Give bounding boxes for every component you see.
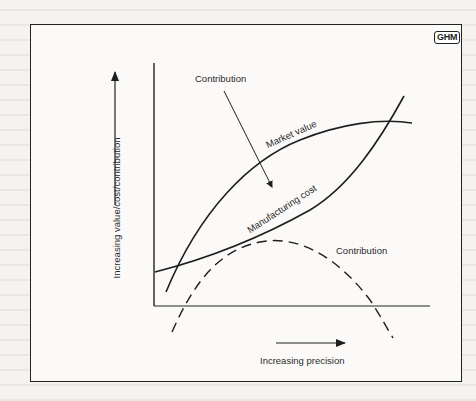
x-axis-label: Increasing precision (260, 355, 345, 366)
y-axis-label: Increasing value/cost/contribution (111, 138, 122, 279)
diagram-canvas (0, 0, 476, 401)
contribution-callout-label: Contribution (195, 73, 246, 84)
contribution-curve-label: Contribution (336, 245, 387, 256)
